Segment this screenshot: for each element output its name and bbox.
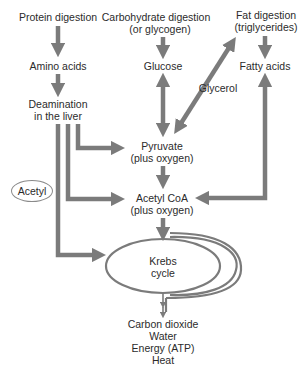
krebs-label: Krebs [149, 255, 176, 268]
glucose-label: Glucose [144, 60, 183, 73]
amino-acids-label: Amino acids [29, 60, 86, 73]
carb-digestion-label: Carbohydrate digestion [102, 11, 211, 24]
output-water: Water [149, 330, 177, 343]
acetyl-coa-sub-label: (plus oxygen) [130, 204, 193, 217]
pyruvate-label: Pyruvate [141, 140, 182, 153]
fatty-acids-label: Fatty acids [240, 60, 291, 73]
fat-digestion-sub-label: (triglycerides) [234, 21, 297, 34]
arrow-deamination-pyruvate [78, 124, 118, 148]
deamination-sub-label: in the liver [34, 110, 82, 123]
glycerol-label: Glycerol [199, 82, 238, 95]
output-heat: Heat [152, 354, 174, 367]
pyruvate-sub-label: (plus oxygen) [130, 152, 193, 165]
arrow-fattyacids-acetylcoa [202, 80, 265, 198]
acetyl-coa-label: Acetyl CoA [136, 192, 188, 205]
carb-digestion-sub-label: (or glycogen) [129, 23, 190, 36]
fat-digestion-label: Fat digestion [236, 9, 296, 22]
arrow-deamination-acetylcoa [68, 124, 118, 199]
acetyl-label: Acetyl [18, 185, 47, 198]
output-carbon-dioxide: Carbon dioxide [128, 318, 199, 331]
protein-digestion-label: Protein digestion [19, 11, 97, 24]
deamination-label: Deamination [29, 98, 88, 111]
output-energy-atp: Energy (ATP) [132, 342, 195, 355]
krebs-sub-label: cycle [151, 267, 175, 280]
